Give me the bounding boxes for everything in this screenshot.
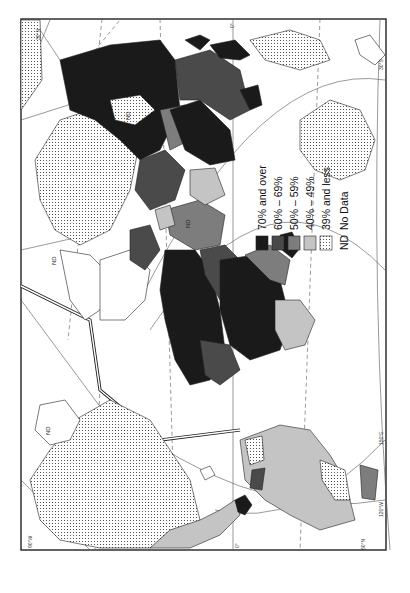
legend-label: 50% – 59% xyxy=(288,176,300,230)
legend-swatch-70 xyxy=(256,236,268,250)
grid-label: 90°W xyxy=(27,535,33,548)
nd-marker: ND xyxy=(125,111,131,120)
grid-label: 60°N xyxy=(360,538,366,550)
region-japan-korea xyxy=(250,30,330,70)
legend-swatch-40 xyxy=(304,236,316,250)
nd-marker: ND xyxy=(170,331,176,340)
legend-swatch-50 xyxy=(288,236,300,250)
legend-nd-code: ND xyxy=(338,234,350,250)
legend-swatch-39 xyxy=(320,236,332,250)
grid-label: 30°N xyxy=(35,28,41,40)
region-chile xyxy=(360,465,378,500)
legend-label: 40% – 49% xyxy=(304,176,316,230)
legend-label: 60% – 69% xyxy=(272,176,284,230)
grid-label: 30°S xyxy=(378,58,384,70)
region-colombia xyxy=(250,468,265,490)
nd-marker: ND xyxy=(51,256,57,265)
choropleth-world-map: ND ND ND ND ND 0° 30°N 30°S 150°E 120°W … xyxy=(0,0,410,593)
nd-marker: ND xyxy=(45,426,51,435)
legend-label: No Data xyxy=(338,191,350,230)
grid-label: 150°E xyxy=(378,431,384,445)
region-central-asia xyxy=(135,150,185,210)
region-eastern-europe xyxy=(130,225,160,270)
grid-label: 0° xyxy=(229,23,235,28)
legend-label: 70% and over xyxy=(256,165,268,230)
region-caribbean-islands xyxy=(200,466,215,480)
legend-swatch-60 xyxy=(272,236,284,250)
grid-label: 0° xyxy=(234,543,240,548)
legend-label: 39% and less xyxy=(320,167,332,230)
grid-label: 120°W xyxy=(378,502,384,517)
region-philippines xyxy=(185,35,210,50)
region-australia xyxy=(300,100,375,180)
region-arabia xyxy=(190,168,225,205)
nd-marker: ND xyxy=(185,219,191,228)
